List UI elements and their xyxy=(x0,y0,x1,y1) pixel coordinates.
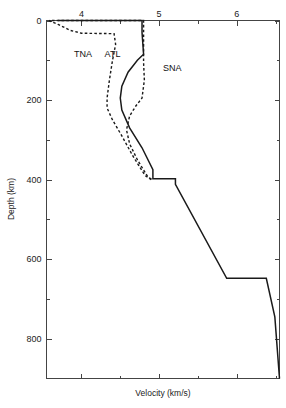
y-tick-label: 0 xyxy=(36,16,41,26)
y-axis-minor-ticks xyxy=(47,61,280,300)
series-curve-tna xyxy=(49,21,152,180)
x-axis-major-ticks xyxy=(82,21,238,379)
series-curve-atl xyxy=(52,21,153,180)
series-label-tna: TNA xyxy=(74,49,92,59)
velocity-depth-figure: 456 0200400600800 SNAATLTNA Velocity (km… xyxy=(0,0,286,408)
velocity-depth-chart: 456 0200400600800 SNAATLTNA Velocity (km… xyxy=(0,0,286,408)
y-axis-tick-labels: 0200400600800 xyxy=(26,16,41,344)
x-axis-title: Velocity (km/s) xyxy=(135,388,190,398)
data-series-group xyxy=(49,21,280,379)
y-axis-title: Depth (km) xyxy=(6,178,16,220)
y-tick-label: 400 xyxy=(26,175,41,185)
y-tick-label: 200 xyxy=(26,95,41,105)
series-label-sna: SNA xyxy=(163,63,182,73)
x-tick-label: 6 xyxy=(234,9,239,19)
series-curve-sna xyxy=(58,21,279,379)
y-tick-label: 600 xyxy=(26,254,41,264)
axis-frame xyxy=(47,21,280,379)
x-tick-label: 4 xyxy=(79,9,84,19)
series-annotations: SNAATLTNA xyxy=(74,49,182,73)
x-axis-tick-labels: 456 xyxy=(79,9,239,19)
y-tick-label: 800 xyxy=(26,334,41,344)
x-tick-label: 5 xyxy=(157,9,162,19)
series-label-atl: ATL xyxy=(105,49,121,59)
